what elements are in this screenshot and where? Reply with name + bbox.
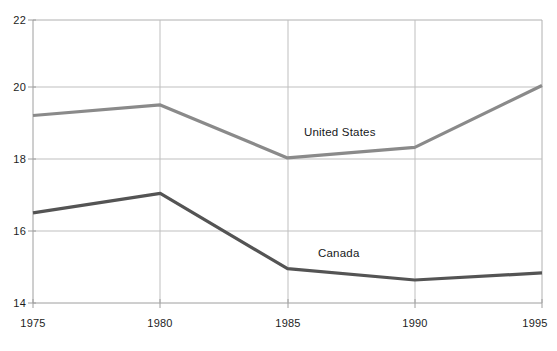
x-tick-label-1980: 1980 [138,317,182,329]
x-tick-label-1985: 1985 [266,317,310,329]
x-tick-label-1975: 1975 [11,317,55,329]
chart-plot-area [0,0,557,351]
x-tick-label-1995: 1995 [513,317,557,329]
line-chart: 22 20 18 16 14 1975 1980 1985 1990 1995 … [0,0,557,351]
y-tick-label-18: 18 [2,153,26,165]
series-label-canada: Canada [318,247,359,259]
y-tick-label-14: 14 [2,297,26,309]
y-tick-marks [28,20,36,303]
vertical-gridlines [160,20,415,303]
series-label-united-states: United States [304,126,376,138]
y-tick-label-20: 20 [2,81,26,93]
y-tick-label-16: 16 [2,225,26,237]
x-tick-label-1990: 1990 [393,317,437,329]
y-tick-label-22: 22 [2,14,26,26]
